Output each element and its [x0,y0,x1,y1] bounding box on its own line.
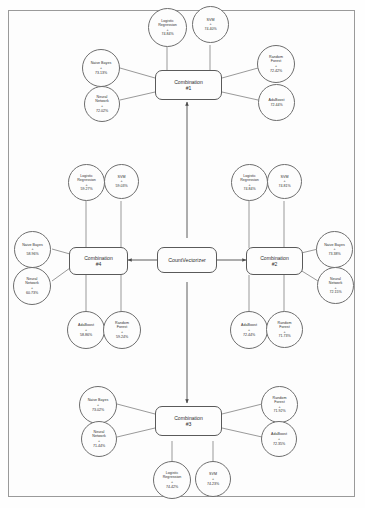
combination-2-sub: #2 [272,261,278,267]
algorithm-name: AdaBoost [271,432,287,436]
combination-1-member-neural-network[interactable]: Neural Network + 72.02% [84,86,120,122]
plus-symbol: + [278,405,280,409]
combination-1-member-logistic-regression[interactable]: Logistic Regression + 74.84% [148,8,187,47]
algorithm-name: SVM [207,18,215,22]
combination-4-member-svm[interactable]: SVM + 59.03% [104,164,139,199]
combination-2-node[interactable]: Combination #2 [246,247,303,275]
algorithm-score: 71.44% [93,444,105,448]
algorithm-name: Naive Bayes [324,243,345,247]
combination-3-sub: #3 [186,421,192,427]
algorithm-name: SVM [118,175,126,179]
plus-symbol: + [171,480,173,484]
algorithm-score: 74.23% [207,482,219,486]
combination-2-member-svm[interactable]: SVM + 74.81% [267,164,302,199]
combination-3-node[interactable]: Combination #3 [155,406,222,436]
algorithm-name: SVM [209,472,217,476]
algorithm-name: Naive Bayes [91,61,112,65]
algorithm-score: 72.02% [96,109,108,113]
algorithm-score: 74.81% [278,184,290,188]
combination-2-member-naive-bayes[interactable]: Naive Bayes + 73.38% [316,231,353,268]
algorithm-score: 72.35% [273,442,285,446]
plus-symbol: + [166,28,168,32]
algorithm-score: 74.42% [166,485,178,489]
algorithm-name: AdaBoost [241,323,257,327]
algorithm-score: 71.73% [278,334,290,338]
plus-symbol: + [85,183,87,187]
combination-4-member-adaboost[interactable]: AdaBoost + 58.86% [67,311,105,349]
plus-symbol: + [283,179,285,183]
combination-4-member-logistic-regression[interactable]: Logistic Regression + 59.27% [68,164,105,201]
algorithm-name: Naive Bayes [22,243,43,247]
algorithm-score: 74.84% [161,32,173,36]
combination-3-member-naive-bayes[interactable]: Naive Bayes + 73.02% [79,386,117,424]
plus-symbol: + [275,64,277,68]
combination-4-member-naive-bayes[interactable]: Naive Bayes + 58.96% [14,231,51,268]
plus-symbol: + [333,247,335,251]
plus-symbol: + [100,66,102,70]
plus-symbol: + [283,330,285,334]
plus-symbol: + [248,183,250,187]
plus-symbol: + [278,437,280,441]
algorithm-score: 72.42% [270,69,282,73]
algorithm-score: 58.86% [80,333,92,337]
combination-2-member-neural-network[interactable]: Neural Network + 72.15% [317,267,354,304]
algorithm-name: AdaBoost [78,323,94,327]
algorithm-score: 73.13% [95,71,107,75]
combination-3-member-neural-network[interactable]: Neural Network + 71.44% [81,421,117,457]
algorithm-score: 72.15% [329,290,341,294]
algorithm-score: 73.38% [328,252,340,256]
algorithm-name: Neural Network [92,430,106,438]
combination-1-member-naive-bayes[interactable]: Naive Bayes + 73.13% [82,49,120,87]
algorithm-score: 72.44% [243,333,255,337]
plus-symbol: + [212,477,214,481]
combination-2-member-adaboost[interactable]: AdaBoost + 72.44% [230,311,268,349]
combination-3-member-random-forest[interactable]: Random Forest + 71.92% [261,386,298,423]
combination-3-member-svm[interactable]: SVM + 74.23% [195,461,231,497]
algorithm-score: 59.27% [80,187,92,191]
algorithm-score: 58.96% [26,252,38,256]
algorithm-score: 71.92% [273,409,285,413]
algorithm-score: 73.02% [92,408,104,412]
plus-symbol: + [101,104,103,108]
combination-1-member-adaboost[interactable]: AdaBoost 72.44% [258,84,295,121]
algorithm-name: Logistic Regression [240,174,259,182]
plus-symbol: + [121,330,123,334]
combination-1-member-random-forest[interactable]: Random Forest + 72.42% [257,45,295,83]
countvectorizer-node[interactable]: CountVectorizer [157,247,217,273]
algorithm-name: Naive Bayes [88,398,109,402]
algorithm-name: Logistic Regression [77,174,96,182]
algorithm-score: 59.24% [116,335,128,339]
plus-symbol: + [120,179,122,183]
plus-symbol: + [209,22,211,26]
algorithm-score: 59.03% [115,184,127,188]
combination-1-sub: #1 [186,85,192,91]
combination-2-member-logistic-regression[interactable]: Logistic Regression + 74.84% [231,164,268,201]
algorithm-score: 72.44% [270,103,282,107]
algorithm-name: Logistic Regression [158,19,177,27]
combination-1-member-svm[interactable]: SVM + 74.40% [192,6,229,43]
algorithm-name: Neural Network [25,277,39,285]
plus-symbol: + [31,247,33,251]
algorithm-name: Neural Network [329,277,343,285]
plus-symbol: + [97,403,99,407]
algorithm-name: Random Forest [115,321,129,329]
plus-symbol: + [248,328,250,332]
plus-symbol: + [334,286,336,290]
combination-4-sub: #4 [96,261,102,267]
countvectorizer-label: CountVectorizer [168,257,206,263]
algorithm-name: Logistic Regression [163,471,182,479]
combination-4-member-neural-network[interactable]: Neural Network + 60.73% [13,267,51,305]
combination-3-member-logistic-regression[interactable]: Logistic Regression + 74.42% [153,461,191,499]
combination-4-node[interactable]: Combination #4 [69,247,128,275]
plus-symbol: + [31,286,33,290]
plus-symbol: + [85,328,87,332]
algorithm-name: Random Forest [273,396,287,404]
combination-4-member-random-forest[interactable]: Random Forest + 59.24% [103,311,141,349]
combination-2-member-random-forest[interactable]: Random Forest + 71.73% [266,311,303,348]
algorithm-score: 74.40% [204,27,216,31]
combination-3-member-adaboost[interactable]: AdaBoost + 72.35% [261,421,297,457]
combination-1-node[interactable]: Combination #1 [155,70,222,100]
diagram-canvas: CountVectorizer Combination #1 Logistic … [0,0,365,508]
algorithm-score: 60.73% [26,291,38,295]
algorithm-name: Random Forest [278,321,292,329]
